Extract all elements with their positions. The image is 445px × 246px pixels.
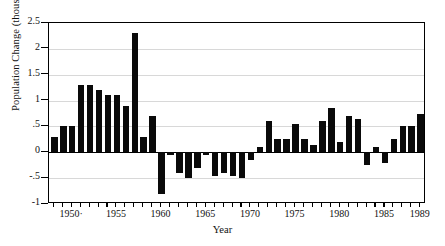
bar [105,95,111,152]
bar [408,126,414,152]
x-tick-mark [267,203,268,207]
x-tick-mark [142,203,143,207]
bar [417,114,423,153]
x-tick-mark [187,203,188,207]
x-tick-mark [151,203,152,207]
bar [114,95,120,152]
y-tick-label: 2.5 [0,15,40,26]
bar [212,152,218,175]
bar [337,142,343,152]
bar [239,152,245,178]
bar [292,124,298,152]
population-change-bar-chart: Population Change (thousands) -1-.50.511… [0,0,445,246]
y-tick-label: 1 [0,93,40,104]
x-tick-mark [366,203,367,207]
x-axis-title: Year [0,224,445,235]
bar [391,139,397,152]
bar [123,106,129,153]
bar [346,116,352,152]
x-tick-label: 1955 [93,208,139,219]
bar [140,137,146,153]
bar [221,152,227,173]
x-tick-mark [214,203,215,207]
gridline [49,178,424,179]
x-tick-label: 1970 [227,208,273,219]
bar [230,152,236,175]
x-tick-mark [240,203,241,207]
bar [167,152,173,155]
x-tick-mark [196,203,197,207]
y-tick-label: -1 [0,196,40,207]
bar [203,152,209,155]
bar [301,139,307,152]
bar [364,152,370,165]
bar [248,152,254,160]
bar [328,108,334,152]
x-tick-mark [258,203,259,207]
bar [96,90,102,152]
x-tick-mark [383,203,384,207]
x-tick-mark [89,203,90,207]
x-tick-mark [285,203,286,207]
x-tick-mark [276,203,277,207]
bar [60,126,66,152]
y-tick-mark [41,203,48,204]
bar [176,152,182,173]
y-tick-mark [41,177,48,178]
bar [274,139,280,152]
x-tick-label: 1989 [397,208,443,219]
y-tick-label: 2 [0,41,40,52]
x-tick-mark [80,203,81,207]
plot-area [48,22,425,203]
x-tick-mark [169,203,170,207]
y-tick-label: 1.5 [0,67,40,78]
x-tick-mark [232,203,233,207]
x-tick-mark [115,203,116,207]
x-tick-label: 1965 [182,208,228,219]
x-tick-mark [106,203,107,207]
gridline [49,75,424,76]
y-tick-mark [41,47,48,48]
x-tick-mark [294,203,295,207]
bar [373,147,379,152]
x-tick-mark [223,203,224,207]
x-tick-label: 1950· [48,208,94,219]
y-tick-mark [41,73,48,74]
x-tick-mark [339,203,340,207]
y-tick-label: -.5 [0,170,40,181]
x-tick-mark [410,203,411,207]
x-tick-mark [71,203,72,207]
x-tick-mark [205,203,206,207]
bar [257,147,263,152]
y-tick-mark [41,22,48,23]
bar [132,33,138,152]
x-tick-mark [249,203,250,207]
x-tick-mark [98,203,99,207]
x-tick-mark [133,203,134,207]
bar [87,85,93,152]
x-tick-mark [321,203,322,207]
bar [158,152,164,193]
x-tick-mark [392,203,393,207]
x-tick-mark [348,203,349,207]
bar [319,121,325,152]
bar [78,85,84,152]
x-tick-mark [178,203,179,207]
x-tick-mark [357,203,358,207]
gridline [49,49,424,50]
y-tick-label: .5 [0,118,40,129]
y-tick-mark [41,125,48,126]
bar [51,137,57,153]
y-tick-mark [41,99,48,100]
bar [266,121,272,152]
x-tick-mark [374,203,375,207]
bar [185,152,191,178]
y-tick-mark [41,151,48,152]
bar [382,152,388,162]
x-tick-label: 1960 [138,208,184,219]
x-tick-mark [401,203,402,207]
bar [69,126,75,152]
x-tick-mark [160,203,161,207]
bar [400,126,406,152]
bar [283,139,289,152]
